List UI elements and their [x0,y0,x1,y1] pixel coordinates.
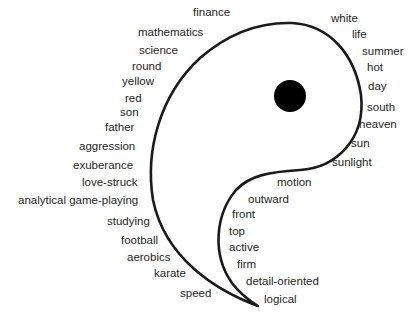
label-firm: firm [237,258,256,271]
yang-outline [151,23,362,306]
label-son: son [120,106,139,119]
label-aerobics: aerobics [127,251,170,264]
label-summer: summer [362,45,404,58]
label-logical: logical [264,293,297,306]
label-heaven: heaven [359,118,397,131]
label-football: football [121,234,158,247]
label-top: top [229,225,245,238]
label-day: day [368,80,387,93]
label-white: white [331,12,358,25]
label-father: father [105,121,134,134]
label-detail-oriented: detail-oriented [246,275,319,288]
label-red: red [125,92,142,105]
label-hot: hot [367,61,383,74]
label-karate: karate [154,267,186,280]
label-round: round [132,60,161,73]
label-love-struck: love-struck [82,176,138,189]
label-life: life [352,28,367,41]
label-aggression: aggression [79,140,135,153]
label-speed: speed [180,287,211,300]
black-dot [274,80,306,112]
label-front: front [232,208,255,221]
label-finance: finance [193,6,230,19]
label-analytical-game-playing: analytical game-playing [18,194,138,207]
label-mathematics: mathematics [138,26,203,39]
label-studying: studying [107,215,150,228]
label-sunlight: sunlight [332,156,372,169]
label-yellow: yellow [122,75,154,88]
label-motion: motion [277,176,312,189]
label-south: south [367,101,395,114]
label-outward: outward [248,193,289,206]
label-active: active [229,241,259,254]
label-sun: sun [351,137,370,150]
label-exuberance: exuberance [73,159,133,172]
label-science: science [139,44,178,57]
